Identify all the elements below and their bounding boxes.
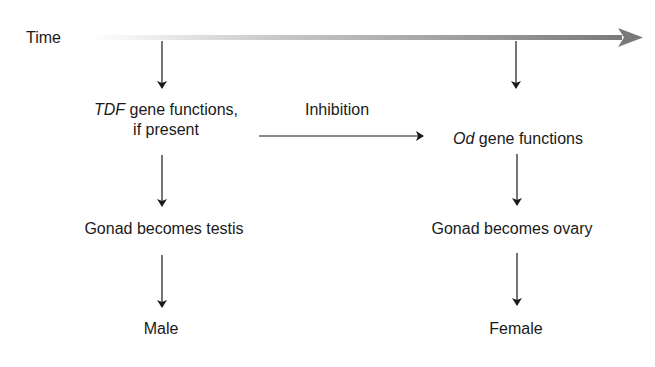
tdf-condition-label: if present xyxy=(133,120,199,139)
od-gene-label: Od gene functions xyxy=(453,129,583,148)
female-label: Female xyxy=(489,319,542,338)
tdf-gene-name: TDF xyxy=(94,101,125,118)
time-label: Time xyxy=(26,28,61,47)
male-label: Male xyxy=(144,319,179,338)
ovary-label: Gonad becomes ovary xyxy=(432,219,593,238)
testis-label: Gonad becomes testis xyxy=(84,219,243,238)
tdf-gene-label: TDF gene functions, xyxy=(94,100,238,119)
diagram-arrows xyxy=(0,0,655,367)
time-arrow xyxy=(92,28,643,47)
inhibition-label: Inhibition xyxy=(305,100,369,119)
od-gene-name: Od xyxy=(453,130,474,147)
